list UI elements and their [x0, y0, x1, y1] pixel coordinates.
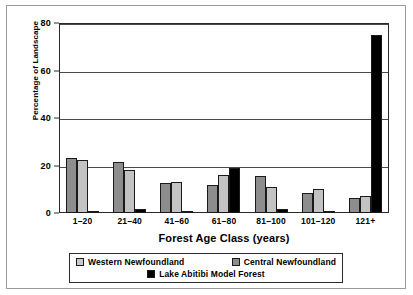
bar [360, 196, 371, 213]
x-axis-title: Forest Age Class (years) [59, 232, 389, 244]
bar-group [59, 23, 106, 213]
chart-legend: Western Newfoundland Central Newfoundlan… [69, 253, 343, 283]
bar [277, 209, 288, 213]
x-axis-tick-label: 1–20 [59, 216, 106, 226]
bar [349, 198, 360, 213]
x-axis-tick-labels: 1–2021–4041–6061–8081–100101–120121+ [59, 216, 389, 226]
bar-group [342, 23, 389, 213]
legend-entry-abitibi: Lake Abitibi Model Forest [147, 269, 265, 279]
legend-swatch-icon [147, 270, 155, 278]
legend-label: Central Newfoundland [244, 257, 336, 267]
bar-group [295, 23, 342, 213]
bar [229, 168, 240, 213]
bar [313, 189, 324, 213]
bar [77, 160, 88, 213]
bar [160, 183, 171, 213]
bar [266, 187, 277, 213]
y-axis-tick-label: 80 [41, 18, 51, 28]
x-axis-tick-label: 121+ [342, 216, 389, 226]
chart-figure: Percentage of Landscape 020406080 1–2021… [6, 5, 406, 289]
bar [135, 209, 146, 213]
bar [324, 211, 335, 213]
y-axis-tick-label: 20 [41, 161, 51, 171]
legend-row: Lake Abitibi Model Forest [76, 269, 336, 279]
x-axis-tick-label: 101–120 [295, 216, 342, 226]
bar [371, 35, 382, 213]
legend-swatch-icon [232, 258, 240, 266]
x-axis-tick-label: 41–60 [153, 216, 200, 226]
y-axis-tick-label: 60 [41, 66, 51, 76]
bar [66, 158, 77, 213]
y-axis-tick-label: 40 [41, 113, 51, 123]
bar-group [200, 23, 247, 213]
legend-entry-central: Central Newfoundland [232, 257, 336, 267]
bars-layer [59, 23, 389, 213]
bar [255, 176, 266, 213]
bar-group [248, 23, 295, 213]
legend-swatch-icon [76, 258, 84, 266]
bar-group [153, 23, 200, 213]
x-axis-tick-label: 81–100 [248, 216, 295, 226]
legend-row: Western Newfoundland Central Newfoundlan… [76, 257, 336, 267]
bar [124, 170, 135, 213]
bar [113, 162, 124, 213]
bar [302, 193, 313, 213]
x-axis-tick-label: 61–80 [200, 216, 247, 226]
legend-entry-western: Western Newfoundland [76, 257, 184, 267]
bar [218, 175, 229, 213]
y-axis: 020406080 [7, 23, 59, 213]
bar [182, 211, 193, 213]
legend-label: Western Newfoundland [88, 257, 184, 267]
bar [88, 211, 99, 213]
bar [207, 185, 218, 214]
bar-group [106, 23, 153, 213]
legend-label: Lake Abitibi Model Forest [159, 269, 265, 279]
x-axis-tick-label: 21–40 [106, 216, 153, 226]
y-axis-tick-label: 0 [46, 208, 51, 218]
bar [171, 182, 182, 213]
